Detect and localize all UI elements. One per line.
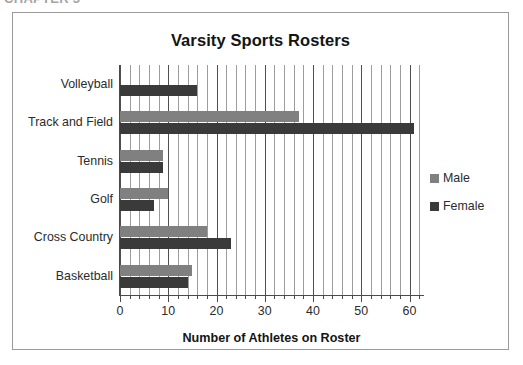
x-minor-tick-4 <box>139 295 140 299</box>
x-axis-title: Number of Athletes on Roster <box>119 331 424 345</box>
x-tick-50 <box>361 295 362 302</box>
chart-legend: Male Female <box>430 171 500 227</box>
x-tick-label-20: 20 <box>210 304 224 318</box>
x-tick-label-30: 30 <box>258 304 272 318</box>
x-tick-label-60: 60 <box>403 304 417 318</box>
bar-tennis-female <box>120 162 163 173</box>
x-minor-tick-32 <box>274 295 275 299</box>
chart-frame: Varsity Sports Rosters 0102030405060Voll… <box>12 12 509 350</box>
x-tick-label-50: 50 <box>354 304 368 318</box>
x-minor-tick-14 <box>188 295 189 299</box>
category-row: Basketball <box>120 257 424 295</box>
x-minor-tick-52 <box>371 295 372 299</box>
x-minor-tick-26 <box>245 295 246 299</box>
x-minor-tick-22 <box>226 295 227 299</box>
x-minor-tick-2 <box>130 295 131 299</box>
x-minor-tick-36 <box>294 295 295 299</box>
x-minor-tick-38 <box>303 295 304 299</box>
plot-area: 0102030405060VolleyballTrack and FieldTe… <box>119 65 424 296</box>
bar-track-and-field-female <box>120 123 414 134</box>
x-tick-label-0: 0 <box>117 304 124 318</box>
x-tick-label-10: 10 <box>161 304 175 318</box>
x-tick-20 <box>217 295 218 302</box>
x-minor-tick-56 <box>390 295 391 299</box>
bar-basketball-male <box>120 265 192 276</box>
x-minor-tick-24 <box>236 295 237 299</box>
x-minor-tick-48 <box>352 295 353 299</box>
x-tick-10 <box>168 295 169 302</box>
category-row: Cross Country <box>120 218 424 256</box>
category-row: Track and Field <box>120 103 424 141</box>
bar-basketball-female <box>120 277 188 288</box>
x-minor-tick-18 <box>207 295 208 299</box>
x-minor-tick-62 <box>419 295 420 299</box>
x-tick-40 <box>313 295 314 302</box>
x-tick-60 <box>410 295 411 302</box>
x-minor-tick-12 <box>178 295 179 299</box>
category-label-cross-country: Cross Country <box>34 230 113 244</box>
bar-cross-country-female <box>120 238 231 249</box>
category-label-volleyball: Volleyball <box>61 77 113 91</box>
category-label-golf: Golf <box>90 192 113 206</box>
x-minor-tick-28 <box>255 295 256 299</box>
bar-track-and-field-male <box>120 111 299 122</box>
x-minor-tick-16 <box>197 295 198 299</box>
category-label-basketball: Basketball <box>56 269 113 283</box>
x-minor-tick-42 <box>323 295 324 299</box>
legend-swatch-female-icon <box>430 202 439 211</box>
category-row: Golf <box>120 180 424 218</box>
bar-golf-female <box>120 200 154 211</box>
category-row: Tennis <box>120 142 424 180</box>
x-minor-tick-8 <box>159 295 160 299</box>
cut-off-header-text: CHAPTER 3 <box>4 0 80 6</box>
legend-label-female: Female <box>443 199 484 213</box>
x-minor-tick-54 <box>381 295 382 299</box>
bar-cross-country-male <box>120 226 207 237</box>
legend-label-male: Male <box>443 171 470 185</box>
x-minor-tick-44 <box>332 295 333 299</box>
x-minor-tick-6 <box>149 295 150 299</box>
category-label-tennis: Tennis <box>77 154 113 168</box>
chart-title: Varsity Sports Rosters <box>13 31 508 50</box>
x-minor-tick-58 <box>400 295 401 299</box>
x-tick-0 <box>120 295 121 302</box>
x-minor-tick-34 <box>284 295 285 299</box>
bar-tennis-male <box>120 150 163 161</box>
bar-volleyball-female <box>120 85 197 96</box>
legend-item-male: Male <box>430 171 500 185</box>
x-minor-tick-46 <box>342 295 343 299</box>
bar-golf-male <box>120 188 168 199</box>
x-tick-30 <box>265 295 266 302</box>
category-label-track-and-field: Track and Field <box>28 115 113 129</box>
legend-swatch-male-icon <box>430 174 439 183</box>
category-row: Volleyball <box>120 65 424 103</box>
legend-item-female: Female <box>430 199 500 213</box>
x-tick-label-40: 40 <box>306 304 320 318</box>
